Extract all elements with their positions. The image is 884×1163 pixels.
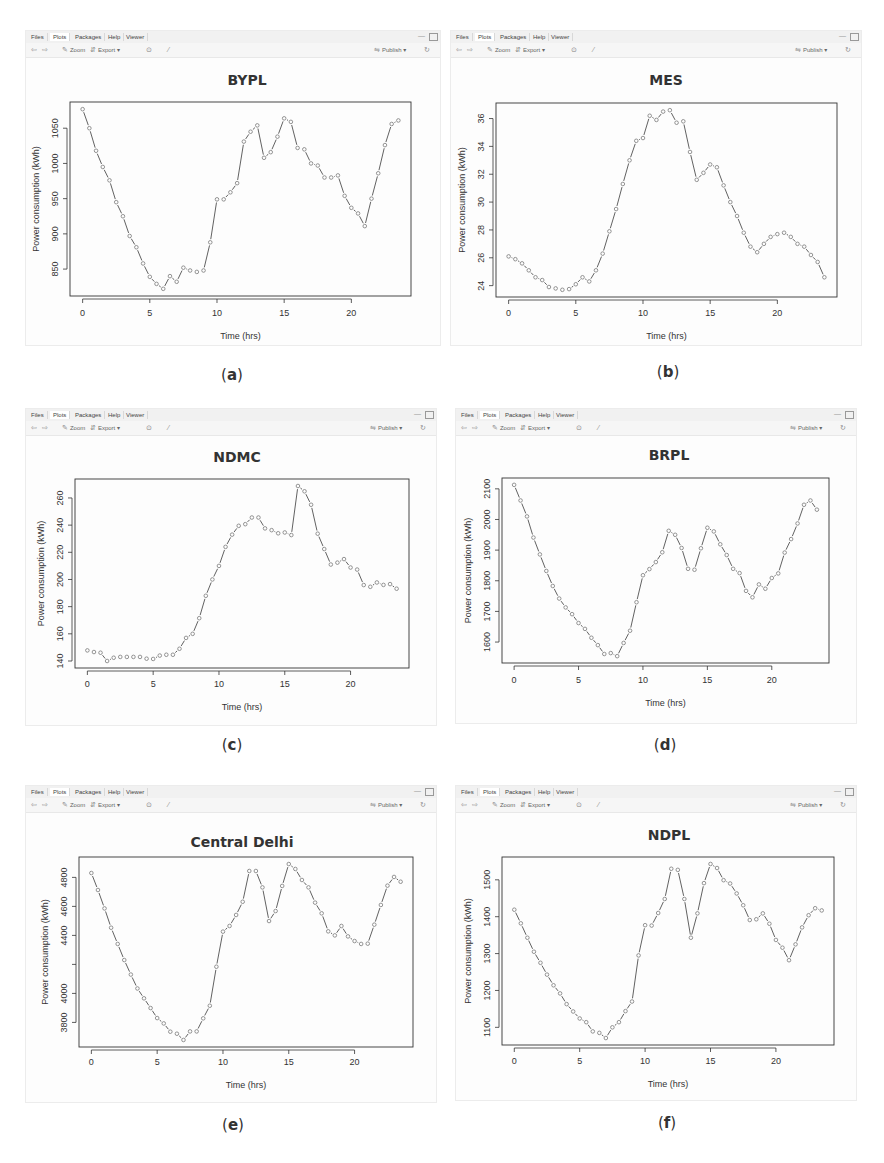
minimize-icon[interactable]: — [414,787,421,795]
zoom-button[interactable]: ✎Zoom [62,801,85,809]
maximize-icon[interactable] [429,33,438,41]
tab-viewer[interactable]: Viewer [548,33,573,41]
zoom-button[interactable]: ✎Zoom [62,424,85,432]
tab-plots[interactable]: Plots [50,411,70,419]
zoom-button[interactable]: ✎Zoom [487,46,510,54]
minimize-icon[interactable]: — [834,410,841,418]
minimize-icon[interactable]: — [414,410,421,418]
forward-arrow-icon[interactable]: ⇨ [472,801,480,809]
publish-button[interactable]: ⇋Publish ▾ [795,46,827,54]
tab-help[interactable]: Help [535,411,554,419]
tab-plots[interactable]: Plots [480,411,500,419]
remove-plot-button[interactable]: ⊙ [576,801,584,809]
maximize-icon[interactable] [845,788,854,796]
forward-arrow-icon[interactable]: ⇨ [42,424,50,432]
minimize-icon[interactable]: — [839,32,846,40]
remove-plot-button[interactable]: ⊙ [571,46,579,54]
export-button[interactable]: ⇵Export ▾ [520,424,550,432]
refresh-button[interactable]: ↻ [420,424,428,432]
tab-plots[interactable]: Plots [50,33,70,41]
publish-button[interactable]: ⇋Publish ▾ [370,801,402,809]
publish-button[interactable]: ⇋Publish ▾ [374,46,406,54]
publish-button[interactable]: ⇋Publish ▾ [370,424,402,432]
tab-files[interactable]: Files [453,33,473,41]
back-arrow-icon[interactable]: ⇦ [461,801,469,809]
maximize-icon[interactable] [845,411,854,419]
export-icon: ⇵ [515,46,521,54]
tab-packages[interactable]: Packages [72,33,105,41]
tab-files[interactable]: Files [458,411,478,419]
tab-plots[interactable]: Plots [480,788,500,796]
export-button[interactable]: ⇵Export ▾ [90,801,120,809]
clear-plots-button[interactable]: ⁄ [598,424,601,432]
remove-plot-button[interactable]: ⊙ [146,801,154,809]
zoom-button[interactable]: ✎Zoom [492,801,515,809]
tab-packages[interactable]: Packages [72,788,105,796]
export-label: Export [98,47,115,53]
publish-icon: ⇋ [790,424,796,432]
back-arrow-icon[interactable]: ⇦ [456,46,464,54]
tab-packages[interactable]: Packages [502,788,535,796]
publish-label: Publish [382,47,402,53]
tab-files[interactable]: Files [28,788,48,796]
publish-button[interactable]: ⇋Publish ▾ [790,424,822,432]
tab-files[interactable]: Files [28,33,48,41]
publish-label: Publish [378,802,398,808]
export-button[interactable]: ⇵Export ▾ [90,424,120,432]
tab-help[interactable]: Help [535,788,554,796]
tab-help[interactable]: Help [105,411,124,419]
clear-plots-button[interactable]: ⁄ [598,801,601,809]
zoom-button[interactable]: ✎Zoom [492,424,515,432]
publish-button[interactable]: ⇋Publish ▾ [790,801,822,809]
remove-plot-button[interactable]: ⊙ [576,424,584,432]
tab-packages[interactable]: Packages [497,33,530,41]
chevron-down-icon: ▾ [399,425,402,431]
back-arrow-icon[interactable]: ⇦ [461,424,469,432]
back-arrow-icon[interactable]: ⇦ [31,801,39,809]
tab-help[interactable]: Help [105,788,124,796]
tab-viewer[interactable]: Viewer [123,33,148,41]
tab-viewer[interactable]: Viewer [553,411,578,419]
zoom-icon: ✎ [492,801,498,809]
forward-arrow-icon[interactable]: ⇨ [472,424,480,432]
back-arrow-icon[interactable]: ⇦ [31,424,39,432]
refresh-button[interactable]: ↻ [845,46,853,54]
refresh-button[interactable]: ↻ [420,801,428,809]
maximize-icon[interactable] [425,411,434,419]
tab-help[interactable]: Help [105,33,124,41]
tab-packages[interactable]: Packages [502,411,535,419]
clear-plots-button[interactable]: ⁄ [168,46,171,54]
tab-viewer[interactable]: Viewer [553,788,578,796]
tab-packages[interactable]: Packages [72,411,105,419]
tab-viewer[interactable]: Viewer [123,788,148,796]
refresh-button[interactable]: ↻ [840,801,848,809]
tab-files[interactable]: Files [28,411,48,419]
forward-arrow-icon[interactable]: ⇨ [42,46,50,54]
zoom-button[interactable]: ✎Zoom [62,46,85,54]
plot-toolbar: ⇦ ⇨ ✎Zoom ⇵Export ▾ ⊙ ⁄ ⇋Publish ▾ ↻ [26,798,436,813]
maximize-icon[interactable] [850,33,859,41]
export-button[interactable]: ⇵Export ▾ [90,46,120,54]
export-button[interactable]: ⇵Export ▾ [515,46,545,54]
clear-plots-button[interactable]: ⁄ [593,46,596,54]
refresh-button[interactable]: ↻ [840,424,848,432]
clear-plots-button[interactable]: ⁄ [168,424,171,432]
tab-plots[interactable]: Plots [475,33,495,41]
forward-arrow-icon[interactable]: ⇨ [42,801,50,809]
clear-plots-button[interactable]: ⁄ [168,801,171,809]
remove-plot-button[interactable]: ⊙ [146,424,154,432]
tab-viewer[interactable]: Viewer [123,411,148,419]
subfigure-caption: (a) [221,366,243,384]
maximize-icon[interactable] [425,788,434,796]
tab-plots[interactable]: Plots [50,788,70,796]
tab-help[interactable]: Help [530,33,549,41]
minimize-icon[interactable]: — [418,32,425,40]
forward-arrow-icon[interactable]: ⇨ [467,46,475,54]
back-arrow-icon[interactable]: ⇦ [31,46,39,54]
minimize-icon[interactable]: — [834,787,841,795]
tab-files[interactable]: Files [458,788,478,796]
export-button[interactable]: ⇵Export ▾ [520,801,550,809]
refresh-button[interactable]: ↻ [424,46,432,54]
publish-label: Publish [378,425,398,431]
remove-plot-button[interactable]: ⊙ [146,46,154,54]
